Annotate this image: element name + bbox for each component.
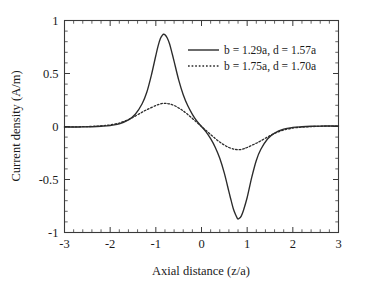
- chart-svg: -3-2-10123 -1-0.500.51 Axial distance (z…: [0, 0, 366, 286]
- legend: b = 1.29a, d = 1.57a b = 1.75a, d = 1.70…: [188, 44, 316, 73]
- x-tick-label: 2: [290, 237, 296, 251]
- y-tick-label: 1: [52, 14, 58, 28]
- legend-label-series-1: b = 1.29a, d = 1.57a: [224, 44, 316, 57]
- y-tick-label: -1: [48, 226, 58, 240]
- x-tick-label: 3: [335, 237, 341, 251]
- legend-label-series-2: b = 1.75a, d = 1.70a: [224, 60, 316, 73]
- x-tick-label: -1: [151, 237, 161, 251]
- x-tick-labels: -3-2-10123: [59, 237, 341, 251]
- x-tick-label: -3: [59, 237, 69, 251]
- x-tick-label: 0: [198, 237, 204, 251]
- x-axis-title: Axial distance (z/a): [152, 264, 250, 278]
- current-density-chart: -3-2-10123 -1-0.500.51 Axial distance (z…: [0, 0, 366, 286]
- y-tick-label: 0: [52, 120, 58, 134]
- y-tick-label: 0.5: [43, 67, 59, 81]
- y-axis-title: Current density (A/m): [9, 70, 23, 181]
- y-tick-labels: -1-0.500.51: [39, 14, 59, 240]
- x-tick-label: 1: [244, 237, 250, 251]
- x-tick-label: -2: [105, 237, 115, 251]
- y-tick-label: -0.5: [39, 173, 59, 187]
